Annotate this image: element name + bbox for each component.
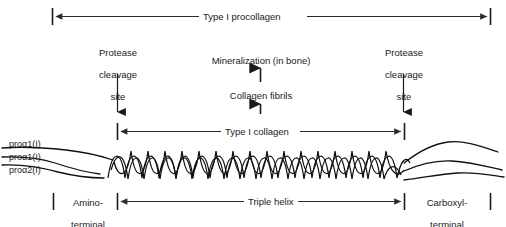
triple-helix-coil (108, 151, 410, 179)
mineralization-label: Mineralization (in bone) (190, 55, 332, 66)
protease-left-line2: cleavage (99, 69, 137, 80)
protease-left-label: Protease cleavage site (86, 36, 150, 102)
c-terminal-chains (404, 142, 504, 180)
protease-right-line3: site (397, 91, 412, 102)
carboxyl-terminal-line1: Carboxyl- (427, 197, 468, 208)
chain-label-proa1-second: proα1(I) (9, 152, 41, 162)
procollagen-diagram: Type I procollagen Protease cleavage sit… (0, 0, 506, 227)
collagen-fibrils-label: Collagen fibrils (213, 90, 309, 101)
procollagen-span-label: Type I procollagen (199, 11, 285, 22)
caption-fragment (0, 221, 506, 227)
chain-label-proa1-first: proα1(I) (9, 139, 41, 149)
protease-right-line2: cleavage (385, 69, 423, 80)
protease-left-line3: site (111, 91, 126, 102)
collagen-span-label: Type I collagen (221, 126, 293, 137)
protease-right-line1: Protease (385, 47, 423, 58)
protease-right-label: Protease cleavage site (372, 36, 436, 102)
chain-label-proa2: proα2(I) (9, 165, 41, 175)
protease-left-line1: Protease (99, 47, 137, 58)
triple-helix-span-label: Triple helix (244, 196, 298, 207)
amino-terminal-line1: Amino- (73, 197, 103, 208)
